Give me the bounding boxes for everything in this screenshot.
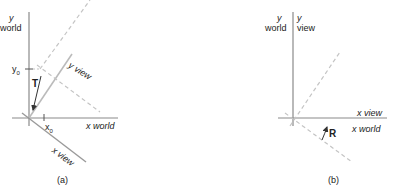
rotation-label: R — [329, 129, 336, 139]
y-view-var-b: y — [297, 13, 302, 23]
x-view-label-b: x view — [357, 108, 382, 118]
x0-sub: 0 — [50, 128, 53, 134]
x-world-label-b: x world — [352, 124, 381, 134]
y-world-var-label: y — [9, 13, 14, 23]
caption-b: (b) — [328, 175, 339, 185]
rotated-y-dashed — [290, 52, 340, 126]
y-view-dashed-extension — [40, 0, 90, 69]
y0-sub: 0 — [17, 70, 20, 76]
translation-label: T — [32, 79, 38, 89]
x0-label: x0 — [45, 122, 53, 136]
diagram-canvas — [0, 0, 393, 193]
y-world-var-b: y — [277, 13, 282, 23]
x-world-label: x world — [86, 121, 115, 131]
rotation-arrow — [322, 127, 327, 140]
rotated-x-dashed — [285, 113, 352, 162]
figure-b — [278, 12, 387, 162]
y-world-name-b: world — [265, 23, 287, 33]
figure-a — [12, 0, 118, 162]
caption-a: (a) — [57, 175, 68, 185]
y-world-name-label: world — [0, 23, 22, 33]
y0-label: y0 — [12, 64, 20, 78]
y-view-name-b: view — [297, 23, 315, 33]
